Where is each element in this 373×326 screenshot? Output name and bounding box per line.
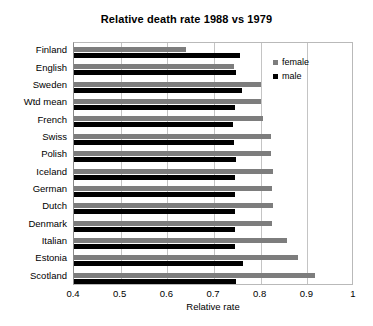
bar-male [74,157,236,162]
bar-female [74,221,272,226]
category-label: French [37,115,67,125]
category-label: Dutch [42,201,67,211]
bar-male [74,279,236,284]
legend-item: female [273,57,335,68]
bar-group [74,234,352,251]
bar-female [74,273,315,278]
bar-group [74,112,352,129]
bar-group [74,251,352,268]
category-label: Finland [36,45,67,55]
legend-item: male [273,71,335,82]
bar-group [74,130,352,147]
bar-male [74,261,243,266]
x-tick-label: 0.9 [300,288,313,299]
bar-male [74,105,235,110]
legend-label: male [282,72,302,81]
bar-female [74,186,272,191]
bar-group [74,199,352,216]
chart-title: Relative death rate 1988 vs 1979 [0,13,373,25]
chart-legend: femalemale [273,57,335,85]
category-axis-labels: FinlandEnglishSwedenWtd meanFrenchSwissP… [0,42,70,285]
legend-swatch-male [273,74,278,79]
bar-male [74,244,235,249]
x-tick-label: 0.5 [113,288,126,299]
x-axis-label: Relative rate [73,301,353,312]
bar-female [74,151,271,156]
category-label: Iceland [36,167,67,177]
bar-male [74,70,236,75]
bar-group [74,269,352,285]
bar-group [74,147,352,164]
x-tick-label: 0.6 [160,288,173,299]
x-tick-label: 0.8 [253,288,266,299]
legend-label: female [282,58,309,67]
category-label: Estonia [35,253,67,263]
x-axis-ticks: 0.40.50.60.70.80.91 [0,288,373,302]
bar-female [74,255,298,260]
bar-female [74,82,261,87]
x-tick-label: 1 [350,288,355,299]
bar-female [74,169,273,174]
legend-swatch-female [273,60,278,65]
category-label: Polish [41,149,67,159]
bar-group [74,165,352,182]
bar-group [74,182,352,199]
bar-female [74,116,263,121]
bar-male [74,175,235,180]
category-label: German [33,184,67,194]
bar-male [74,122,233,127]
bar-group [74,95,352,112]
category-label: Scotland [30,271,67,281]
bar-male [74,53,240,58]
bar-group [74,217,352,234]
bar-male [74,88,242,93]
category-label: Italian [42,236,67,246]
bar-female [74,203,273,208]
bar-male [74,227,235,232]
relative-death-rate-chart: Relative death rate 1988 vs 1979 Finland… [0,0,373,326]
bar-male [74,140,234,145]
category-label: Wtd mean [24,97,67,107]
category-label: Sweden [33,80,67,90]
bar-male [74,209,235,214]
bar-female [74,47,186,52]
category-label: Swiss [42,132,67,142]
bar-female [74,238,287,243]
category-label: Denmark [28,219,67,229]
bar-female [74,134,271,139]
bar-female [74,64,234,69]
x-tick-label: 0.7 [206,288,219,299]
bar-female [74,99,261,104]
x-tick-label: 0.4 [66,288,79,299]
bar-male [74,192,235,197]
category-label: English [36,63,67,73]
